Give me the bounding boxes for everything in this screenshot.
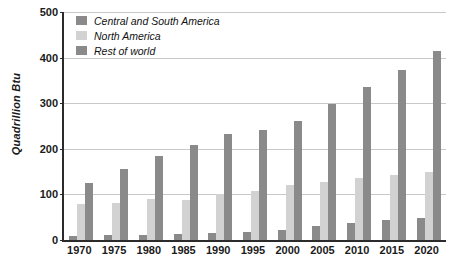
bar-chart: Quadrillion Btu 0100200300400500 1970197… bbox=[0, 0, 450, 275]
bar-group bbox=[278, 12, 302, 240]
bar bbox=[433, 51, 441, 240]
y-tick-label: 400 bbox=[40, 52, 58, 64]
x-tick-label: 1975 bbox=[97, 244, 131, 256]
bar-group bbox=[382, 12, 406, 240]
bar bbox=[85, 183, 93, 240]
bar bbox=[259, 130, 267, 240]
bar bbox=[77, 204, 85, 240]
bar-group bbox=[312, 12, 336, 240]
legend-item[interactable]: North America bbox=[76, 29, 220, 42]
bar bbox=[208, 233, 216, 240]
y-tick-label: 500 bbox=[40, 6, 58, 18]
bar bbox=[382, 220, 390, 240]
x-tick-label: 2010 bbox=[340, 244, 374, 256]
bar bbox=[120, 169, 128, 240]
x-tick-label: 1980 bbox=[132, 244, 166, 256]
bar bbox=[398, 70, 406, 240]
x-tick-label: 2000 bbox=[271, 244, 305, 256]
bar bbox=[425, 172, 433, 240]
bar bbox=[320, 182, 328, 240]
bar bbox=[243, 232, 251, 240]
legend-label: North America bbox=[94, 30, 161, 42]
x-tick-label: 2005 bbox=[305, 244, 339, 256]
bar bbox=[182, 200, 190, 240]
legend: Central and South AmericaNorth AmericaRe… bbox=[76, 14, 220, 59]
legend-swatch-icon bbox=[76, 31, 87, 40]
x-axis-ticks: 1970197519801985199019952000200520102015… bbox=[62, 244, 444, 256]
bar bbox=[294, 121, 302, 240]
bar bbox=[417, 218, 425, 240]
bar bbox=[112, 203, 120, 240]
x-tick-label: 1990 bbox=[201, 244, 235, 256]
bar bbox=[224, 134, 232, 240]
bar bbox=[390, 175, 398, 240]
x-tick-label: 1985 bbox=[167, 244, 201, 256]
bar-group bbox=[347, 12, 371, 240]
bar bbox=[216, 194, 224, 240]
bar bbox=[347, 223, 355, 240]
bar bbox=[312, 226, 320, 240]
x-tick-label: 1995 bbox=[236, 244, 270, 256]
legend-label: Central and South America bbox=[94, 15, 220, 27]
bar bbox=[139, 235, 147, 240]
y-tick-label: 300 bbox=[40, 97, 58, 109]
bar bbox=[278, 230, 286, 240]
bar bbox=[155, 156, 163, 240]
bar bbox=[286, 185, 294, 240]
legend-label: Rest of world bbox=[94, 45, 155, 57]
y-tick-label: 200 bbox=[40, 143, 58, 155]
x-tick-label: 2015 bbox=[375, 244, 409, 256]
bar bbox=[328, 104, 336, 240]
bar-group bbox=[243, 12, 267, 240]
bar-group bbox=[417, 12, 441, 240]
legend-swatch-icon bbox=[76, 46, 87, 55]
bar bbox=[251, 191, 259, 240]
legend-item[interactable]: Central and South America bbox=[76, 14, 220, 27]
bar bbox=[69, 236, 77, 240]
y-tick-mark bbox=[60, 240, 64, 241]
y-axis-title: Quadrillion Btu bbox=[10, 44, 22, 184]
x-tick-label: 2020 bbox=[410, 244, 444, 256]
bar bbox=[104, 235, 112, 240]
bar bbox=[355, 178, 363, 240]
bar bbox=[147, 199, 155, 240]
x-tick-label: 1970 bbox=[62, 244, 96, 256]
legend-swatch-icon bbox=[76, 16, 87, 25]
bar bbox=[190, 145, 198, 240]
legend-item[interactable]: Rest of world bbox=[76, 44, 220, 57]
y-tick-label: 100 bbox=[40, 188, 58, 200]
y-tick-label: 0 bbox=[52, 234, 58, 246]
bar bbox=[174, 234, 182, 240]
bar bbox=[363, 87, 371, 240]
